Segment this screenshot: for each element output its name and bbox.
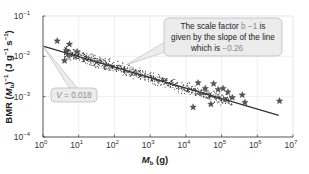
svg-text:101: 101	[70, 139, 83, 150]
svg-text:104: 104	[177, 139, 190, 150]
svg-text:100: 100	[35, 139, 48, 150]
svg-text:105: 105	[213, 139, 226, 150]
y-axis-label: BMR (Mb)−1 (J g−1 s−1)	[3, 30, 15, 123]
svg-text:10−4: 10−4	[14, 131, 31, 142]
y-axis-ticks: 10−110−210−310−4	[14, 10, 46, 142]
svg-text:107: 107	[285, 139, 298, 150]
callout-line-1: The scale factor b −1 is	[181, 22, 266, 31]
svg-text:10−3: 10−3	[14, 91, 31, 102]
intercept-label: V = 0.018	[56, 91, 92, 100]
svg-text:103: 103	[142, 139, 155, 150]
svg-text:10−2: 10−2	[14, 50, 31, 61]
svg-text:106: 106	[249, 139, 262, 150]
callout-line-2: given by the slope of the line	[171, 33, 275, 42]
svg-text:10−1: 10−1	[14, 10, 31, 21]
callout-line-3: which is −0.26	[190, 44, 244, 53]
svg-text:102: 102	[106, 139, 119, 150]
x-axis-label: Mb (g)	[142, 154, 168, 166]
bmr-scatter-chart: 100101102103104105106107 10−110−210−310−…	[0, 0, 309, 174]
